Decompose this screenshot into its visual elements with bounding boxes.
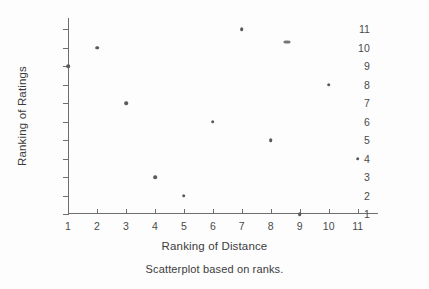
- x-tick-label: 4: [152, 220, 158, 232]
- x-tick-label: 10: [323, 220, 335, 232]
- data-point: [327, 83, 331, 87]
- data-point: [66, 64, 70, 68]
- y-axis-title: Ranking of Ratings: [16, 66, 28, 166]
- x-tick-label: 6: [210, 220, 216, 232]
- x-tick-label: 8: [268, 220, 274, 232]
- data-point: [124, 101, 128, 105]
- y-tick: [63, 29, 69, 30]
- y-tick: [63, 122, 69, 123]
- y-tick-label: 8: [364, 79, 370, 91]
- data-point: [283, 41, 290, 44]
- y-tick: [63, 140, 69, 141]
- y-tick-label: 3: [364, 171, 370, 183]
- x-tick: [68, 209, 69, 215]
- x-tick-label: 2: [94, 220, 100, 232]
- y-tick: [63, 48, 69, 49]
- x-tick-label: 11: [352, 220, 363, 232]
- x-tick: [358, 209, 359, 215]
- y-tick: [63, 85, 69, 86]
- y-tick-label: 4: [364, 153, 370, 165]
- y-tick: [63, 159, 69, 160]
- x-tick: [97, 209, 98, 215]
- data-point: [298, 212, 302, 216]
- x-tick: [213, 209, 214, 215]
- y-tick-label: 1: [364, 208, 370, 220]
- data-point: [153, 175, 157, 179]
- y-tick-label: 9: [364, 60, 370, 72]
- x-tick: [242, 209, 243, 215]
- x-tick-label: 3: [123, 220, 129, 232]
- x-tick-label: 1: [65, 220, 71, 232]
- x-tick-label: 9: [297, 220, 303, 232]
- scatterplot-figure: 1234567891011 1234567891011 Ranking of R…: [0, 0, 429, 289]
- y-tick: [63, 103, 69, 104]
- x-tick: [329, 209, 330, 215]
- y-tick-label: 5: [364, 134, 370, 146]
- figure-caption: Scatterplot based on ranks.: [0, 263, 429, 275]
- y-tick-label: 10: [358, 42, 370, 54]
- x-tick-label: 7: [239, 220, 245, 232]
- data-point: [240, 27, 244, 31]
- y-tick-label: 6: [364, 116, 370, 128]
- data-point: [356, 157, 360, 161]
- x-tick: [184, 209, 185, 215]
- y-tick-label: 7: [364, 97, 370, 109]
- data-point: [211, 120, 215, 124]
- x-axis-line: [68, 213, 378, 214]
- x-tick: [126, 209, 127, 215]
- data-point: [269, 138, 273, 142]
- y-tick-label: 11: [359, 23, 370, 35]
- plot-area: 1234567891011 1234567891011: [68, 18, 378, 214]
- data-point: [182, 194, 186, 198]
- y-tick: [63, 214, 69, 215]
- data-point: [95, 46, 99, 50]
- x-tick-label: 5: [181, 220, 187, 232]
- y-tick: [63, 177, 69, 178]
- x-tick: [155, 209, 156, 215]
- y-tick: [63, 196, 69, 197]
- x-tick: [271, 209, 272, 215]
- y-tick-label: 2: [364, 190, 370, 202]
- x-axis-title: Ranking of Distance: [0, 240, 429, 252]
